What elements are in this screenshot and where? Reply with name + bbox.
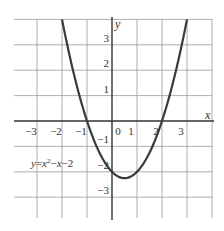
x-tick-label: −1 (75, 125, 87, 137)
parabola-curve (62, 19, 187, 178)
x-tick-label: 0 (115, 125, 121, 137)
y-axis-label: y (114, 17, 121, 31)
y-tick-label: −2 (97, 159, 109, 171)
grid-lines (14, 19, 212, 218)
y-tick-label: 3 (104, 32, 110, 44)
x-tick-label: 2 (153, 125, 159, 137)
equation-label: y=x2−x−2 (30, 157, 73, 169)
parabola-graph: −3−2−10123321−1−2−3 y x y=x2−x−2 (0, 0, 224, 231)
axes (14, 17, 214, 220)
x-tick-label: −2 (50, 125, 62, 137)
x-tick-label: 1 (128, 125, 134, 137)
x-tick-label: −3 (25, 125, 37, 137)
y-tick-label: −1 (97, 133, 109, 145)
x-tick-label: 3 (178, 125, 184, 137)
y-tick-label: 1 (104, 83, 110, 95)
y-tick-label: −3 (97, 184, 109, 196)
x-axis-label: x (204, 108, 211, 122)
y-tick-label: 2 (104, 57, 110, 69)
